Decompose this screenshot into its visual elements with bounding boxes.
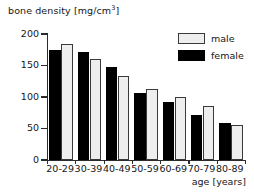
bar-female xyxy=(106,67,118,160)
x-axis-tick xyxy=(245,160,246,164)
x-axis-tick-label: 40-49 xyxy=(103,163,131,174)
legend-label-male: male xyxy=(211,33,235,44)
x-axis-title: age [years] xyxy=(192,176,246,187)
chart-legend: male female xyxy=(178,31,244,65)
bar-female xyxy=(134,93,146,160)
bar-female xyxy=(219,123,231,160)
bar-chart-figure: bone density [mg/cm3] 050100150200 20-29… xyxy=(0,0,254,192)
y-axis-tick-label: 150 xyxy=(0,59,39,70)
legend-label-female: female xyxy=(211,50,244,61)
bar-male xyxy=(146,89,158,160)
bar-male xyxy=(118,76,130,160)
bar-male xyxy=(61,44,73,160)
x-axis-tick-label: 70-79 xyxy=(187,163,215,174)
legend-swatch-female-icon xyxy=(178,50,205,61)
y-axis-title-end: ] xyxy=(115,5,119,16)
y-axis-tick-label: 200 xyxy=(0,28,39,39)
y-axis-tick-label: 100 xyxy=(0,91,39,102)
x-axis-tick-label: 80-89 xyxy=(216,163,244,174)
bar-male xyxy=(175,97,187,160)
bar-male xyxy=(231,125,243,160)
bar-female xyxy=(78,52,90,160)
y-axis-title: bone density [mg/cm3] xyxy=(8,5,119,16)
legend-item-male: male xyxy=(178,31,244,45)
bar-female xyxy=(49,50,61,160)
bar-male xyxy=(90,59,102,160)
x-axis-tick-label: 50-59 xyxy=(131,163,159,174)
bar-female xyxy=(163,102,175,160)
bar-female xyxy=(191,115,203,160)
legend-swatch-male-icon xyxy=(178,33,205,44)
y-axis-title-main: bone density [mg/cm xyxy=(8,5,111,16)
y-axis-tick-label: 0 xyxy=(0,154,39,165)
bar-male xyxy=(203,106,215,160)
x-axis-tick-label: 60-69 xyxy=(159,163,187,174)
legend-item-female: female xyxy=(178,48,244,62)
x-axis-tick-label: 30-39 xyxy=(74,163,102,174)
y-axis-tick-label: 50 xyxy=(0,122,39,133)
x-axis-tick-label: 20-29 xyxy=(46,163,74,174)
